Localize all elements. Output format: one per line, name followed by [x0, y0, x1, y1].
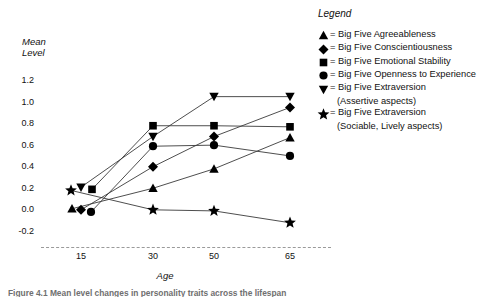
legend-item-label: = Big Five Conscientiousness — [330, 42, 452, 54]
legend-item: = Big Five Agreeableness — [316, 29, 504, 41]
legend: Legend = Big Five Agreeableness= Big Fiv… — [316, 8, 504, 132]
square-icon — [316, 56, 330, 68]
baseline-dashed-rule — [41, 247, 331, 248]
series-circle — [87, 141, 294, 216]
legend-item: = Big Five Extraversion — [316, 82, 504, 94]
x-tick-label: 30 — [138, 252, 168, 261]
x-tick-label: 50 — [199, 252, 229, 261]
series-canvas — [0, 0, 340, 250]
diamond-icon — [316, 42, 330, 54]
series-diamond — [76, 102, 295, 214]
chart-figure: Mean Level 1.21.00.80.60.40.20.0-0.2 153… — [0, 0, 504, 297]
legend-item-label: = Big Five Agreeableness — [330, 29, 436, 41]
triangle-down-icon — [316, 82, 330, 94]
x-tick-label: 15 — [66, 252, 96, 261]
legend-title: Legend — [318, 8, 504, 19]
plot-area — [0, 0, 340, 250]
series-star — [65, 184, 296, 228]
circle-icon — [316, 69, 330, 81]
legend-item-label: = Big Five Openness to Experience — [330, 69, 476, 81]
legend-item: = Big Five Emotional Stability — [316, 56, 504, 68]
star-icon — [316, 107, 330, 119]
legend-item-label: = Big Five Emotional Stability — [330, 56, 451, 68]
series-triangle-down — [76, 93, 294, 192]
legend-item-sublabel: (Sociable, Lively aspects) — [337, 121, 504, 133]
legend-item: = Big Five Openness to Experience — [316, 69, 504, 81]
figure-caption: Figure 4.1 Mean level changes in persona… — [8, 288, 308, 297]
legend-item-label: = Big Five Extraversion — [330, 82, 426, 94]
x-axis-title: Age — [0, 270, 330, 281]
triangle-up-icon — [316, 29, 330, 41]
legend-item-sublabel: (Assertive aspects) — [337, 96, 504, 108]
legend-items: = Big Five Agreeableness= Big Five Consc… — [316, 29, 504, 132]
legend-item: = Big Five Extraversion — [316, 107, 504, 119]
legend-item: = Big Five Conscientiousness — [316, 42, 504, 54]
legend-item-label: = Big Five Extraversion — [330, 107, 426, 119]
x-tick-label: 65 — [275, 252, 305, 261]
